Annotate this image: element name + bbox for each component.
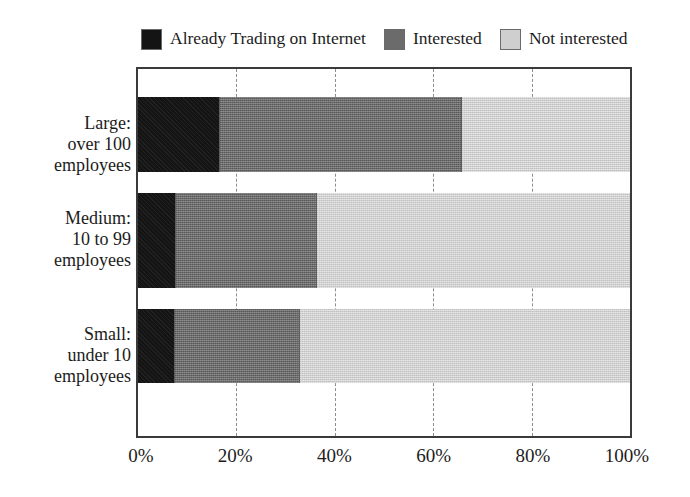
category-label-small-line3: employees [1,366,131,387]
bar-segment-small-not-interested [300,309,630,383]
category-label-large-line3: employees [1,155,131,176]
legend-swatch-interested [384,29,405,50]
category-label-large-line2: over 100 [1,134,131,155]
category-label-small-line1: Small: [1,324,131,345]
category-label-small-line2: under 10 [1,345,131,366]
x-tick-80: 80% [515,444,550,468]
bar-segment-large-interested [220,97,463,172]
legend-entry-interested: Interested [384,29,482,50]
category-label-medium-line3: employees [1,250,131,271]
category-label-medium-line2: 10 to 99 [1,229,131,250]
bar-segment-medium-already-trading [138,193,176,288]
bar-segment-large-already-trading [138,97,220,172]
legend-entry-already-trading: Already Trading on Internet [141,29,366,50]
x-tick-40: 40% [317,444,352,468]
legend-swatch-already-trading [141,29,162,50]
x-axis-tick-labels: 0% 20% 40% 60% 80% 100% [136,444,632,474]
category-label-large: Large: over 100 employees [1,113,131,176]
x-tick-20: 20% [218,444,253,468]
legend-swatch-not-interested [500,29,521,50]
bar-row-medium [138,193,630,288]
plot-area [136,67,632,438]
category-label-medium-line1: Medium: [1,208,131,229]
x-tick-0: 0% [128,444,153,468]
category-label-medium: Medium: 10 to 99 employees [1,208,131,271]
bar-segment-small-already-trading [138,309,175,383]
bar-segment-medium-interested [176,193,317,288]
legend-label-already-trading: Already Trading on Internet [170,30,366,48]
bar-segment-small-interested [175,309,299,383]
bar-row-large [138,97,630,172]
legend-label-interested: Interested [413,30,482,48]
plot-inner [138,69,630,436]
category-label-large-line1: Large: [1,113,131,134]
bar-segment-medium-not-interested [317,193,630,288]
bar-row-small [138,309,630,383]
bar-segment-large-not-interested [462,97,630,172]
legend-label-not-interested: Not interested [529,30,628,48]
stacked-bar-chart: Already Trading on Internet Interested N… [0,0,690,497]
x-tick-100: 100% [605,444,649,468]
category-axis-labels: Large: over 100 employees Medium: 10 to … [0,0,131,497]
category-label-small: Small: under 10 employees [1,324,131,387]
chart-legend: Already Trading on Internet Interested N… [141,26,646,52]
legend-entry-not-interested: Not interested [500,29,628,50]
x-tick-60: 60% [416,444,451,468]
